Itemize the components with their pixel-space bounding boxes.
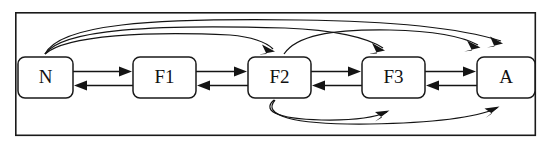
node-f1-label: F1 (154, 66, 174, 87)
diagram-container: N F1 F2 F3 A (0, 0, 550, 149)
node-a[interactable]: A (477, 57, 535, 98)
node-f1[interactable]: F1 (133, 57, 196, 98)
state-transition-diagram: N F1 F2 F3 A (0, 0, 550, 149)
node-n-label: N (39, 66, 53, 87)
node-n[interactable]: N (18, 57, 73, 98)
node-a-label: A (499, 66, 513, 87)
node-f3-label: F3 (383, 66, 403, 87)
node-f3[interactable]: F3 (362, 57, 425, 98)
node-f2[interactable]: F2 (248, 57, 311, 98)
node-f2-label: F2 (269, 66, 289, 87)
